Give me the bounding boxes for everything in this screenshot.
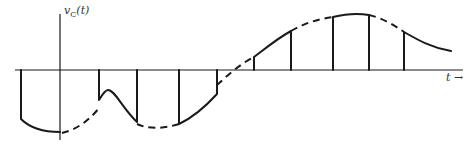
held-segment-2 bbox=[99, 70, 137, 122]
held-segment-1 bbox=[21, 70, 60, 132]
held-segment-4 bbox=[254, 31, 291, 70]
capacitor-voltage-solid bbox=[21, 14, 451, 132]
sampled-waveform-diagram: vC(t) t → bbox=[0, 0, 471, 147]
y-axis-label: vC(t) bbox=[64, 4, 89, 19]
held-segment-5 bbox=[333, 14, 369, 70]
x-axis-label: t → bbox=[446, 71, 463, 84]
input-segment-1 bbox=[62, 108, 99, 133]
input-segment-5 bbox=[369, 15, 404, 32]
input-segment-4 bbox=[291, 17, 333, 31]
input-signal-dashed bbox=[62, 15, 404, 133]
held-segment-3 bbox=[179, 70, 217, 124]
held-segment-6 bbox=[404, 32, 451, 70]
input-segment-2 bbox=[137, 124, 179, 128]
input-segment-3 bbox=[217, 57, 254, 85]
